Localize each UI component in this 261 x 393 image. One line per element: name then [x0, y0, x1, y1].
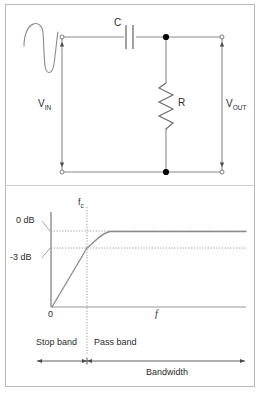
panel-divider [6, 185, 254, 186]
resistor-label: R [178, 98, 185, 108]
bandwidth-label: Bandwidth [146, 368, 188, 377]
capacitor-label: C [114, 18, 121, 28]
stop-band-label: Stop band [36, 338, 77, 347]
figure-border [5, 4, 255, 387]
cutoff-subscript: c [81, 202, 84, 209]
vout-label: VOUT [226, 99, 246, 112]
vout-subscript: OUT [233, 104, 247, 111]
cutoff-frequency-label: fc [78, 198, 84, 209]
frequency-axis-label: f [155, 309, 158, 319]
vout-letter: V [226, 98, 233, 109]
origin-label: 0 [48, 310, 53, 319]
minus-three-db-label: -3 dB [10, 253, 32, 262]
zero-db-label: 0 dB [16, 216, 35, 225]
pass-band-label: Pass band [94, 338, 137, 347]
vin-letter: V [38, 98, 45, 109]
vin-label: VIN [38, 99, 51, 112]
figure-root: C R VIN VOUT fc 0 dB -3 dB 0 f Stop band… [0, 0, 261, 393]
vin-subscript: IN [45, 104, 52, 111]
